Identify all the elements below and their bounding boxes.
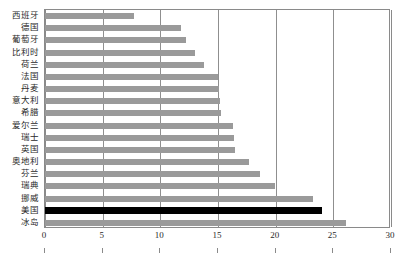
bar-row: [45, 95, 389, 107]
bar-比利时: [45, 50, 195, 56]
x-tick-mark-25: [332, 248, 333, 253]
category-label-瑞典: 瑞典: [21, 179, 39, 191]
bar-chart: 西班牙德国葡萄牙比利时荷兰法国丹麦意大利希腊爱尔兰瑞士英国奥地利芬兰瑞典挪威美国…: [0, 0, 402, 256]
bar-row: [45, 59, 389, 71]
category-label-英国: 英国: [21, 143, 39, 155]
plot-area: [44, 9, 390, 228]
x-tick-mark-20: [275, 248, 276, 253]
bar-row: [45, 34, 389, 46]
bar-英国: [45, 147, 235, 153]
bar-挪威: [45, 196, 313, 202]
bar-row: [45, 180, 389, 192]
bar-row: [45, 193, 389, 205]
bar-丹麦: [45, 86, 219, 92]
bar-row: [45, 83, 389, 95]
x-tick-mark-15: [217, 248, 218, 253]
gridline-30: [391, 10, 392, 227]
bar-row: [45, 217, 389, 229]
category-label-冰岛: 冰岛: [21, 216, 39, 228]
bar-瑞士: [45, 135, 234, 141]
x-tick-label-0: 0: [42, 230, 47, 240]
bar-荷兰: [45, 62, 204, 68]
x-tick-label-10: 10: [155, 230, 164, 240]
category-label-德国: 德国: [21, 21, 39, 33]
category-label-奥地利: 奥地利: [12, 155, 39, 167]
bar-row: [45, 132, 389, 144]
category-label-芬兰: 芬兰: [21, 167, 39, 179]
bar-row: [45, 156, 389, 168]
category-label-挪威: 挪威: [21, 192, 39, 204]
x-tick-mark-0: [44, 248, 45, 253]
category-label-法国: 法国: [21, 70, 39, 82]
category-label-希腊: 希腊: [21, 106, 39, 118]
x-tick-mark-30: [390, 248, 391, 253]
category-label-葡萄牙: 葡萄牙: [12, 33, 39, 45]
bar-series: [45, 10, 389, 227]
bar-瑞典: [45, 183, 275, 189]
category-label-意大利: 意大利: [12, 94, 39, 106]
bar-row: [45, 168, 389, 180]
category-label-比利时: 比利时: [12, 46, 39, 58]
x-tick-label-15: 15: [213, 230, 222, 240]
bar-冰岛: [45, 220, 346, 226]
bar-row: [45, 144, 389, 156]
bar-row: [45, 71, 389, 83]
bar-row: [45, 120, 389, 132]
category-label-荷兰: 荷兰: [21, 58, 39, 70]
x-tick-label-25: 25: [328, 230, 337, 240]
bar-row: [45, 107, 389, 119]
category-label-爱尔兰: 爱尔兰: [12, 119, 39, 131]
bar-意大利: [45, 98, 220, 104]
bar-爱尔兰: [45, 123, 233, 129]
bar-德国: [45, 25, 181, 31]
category-label-西班牙: 西班牙: [12, 9, 39, 21]
bar-希腊: [45, 110, 221, 116]
bar-奥地利: [45, 159, 249, 165]
x-tick-mark-10: [159, 248, 160, 253]
bar-row: [45, 22, 389, 34]
bar-row: [45, 47, 389, 59]
bar-芬兰: [45, 171, 260, 177]
x-tick-label-5: 5: [99, 230, 104, 240]
bar-美国: [45, 207, 322, 214]
bar-法国: [45, 74, 218, 80]
bar-葡萄牙: [45, 37, 186, 43]
category-label-瑞士: 瑞士: [21, 131, 39, 143]
x-tick-label-30: 30: [386, 230, 395, 240]
category-label-丹麦: 丹麦: [21, 82, 39, 94]
bar-row: [45, 10, 389, 22]
x-tick-mark-5: [102, 248, 103, 253]
value-axis-tick-labels: 051015202530: [0, 230, 402, 248]
bar-row: [45, 205, 389, 217]
category-label-美国: 美国: [21, 204, 39, 216]
category-axis-labels: 西班牙德国葡萄牙比利时荷兰法国丹麦意大利希腊爱尔兰瑞士英国奥地利芬兰瑞典挪威美国…: [0, 9, 41, 228]
bar-西班牙: [45, 13, 134, 19]
x-tick-label-20: 20: [270, 230, 279, 240]
